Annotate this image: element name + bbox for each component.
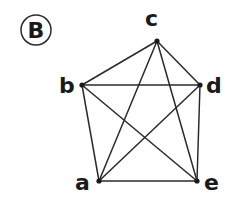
- edge-a-b: [82, 85, 99, 181]
- vertex-e: [194, 178, 199, 183]
- edge-a-d: [99, 85, 200, 181]
- edges: [82, 41, 200, 181]
- edge-a-c: [99, 41, 157, 181]
- vertex-d: [197, 82, 202, 87]
- vertex-label-d: d: [206, 73, 222, 98]
- vertex-label-a: a: [75, 170, 90, 195]
- vertex-label-e: e: [204, 170, 219, 195]
- badge-label: B: [28, 18, 45, 43]
- vertex-label-b: b: [59, 73, 75, 98]
- edge-d-e: [197, 85, 200, 181]
- edge-b-e: [82, 85, 197, 181]
- complete-graph-k5: B c b d a e: [0, 0, 240, 197]
- vertex-c: [154, 38, 159, 43]
- vertex-a: [96, 178, 101, 183]
- vertices: [79, 38, 202, 183]
- edge-b-c: [82, 41, 157, 85]
- vertex-label-c: c: [145, 6, 158, 31]
- vertex-b: [79, 82, 84, 87]
- badge: B: [21, 15, 51, 45]
